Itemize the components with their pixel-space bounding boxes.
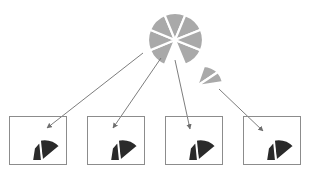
source-pie <box>148 13 203 65</box>
dark-slice <box>188 139 216 161</box>
dark-slice <box>110 139 138 161</box>
target-box-3 <box>166 117 223 165</box>
arrows <box>47 53 263 131</box>
target-box-1 <box>10 117 67 165</box>
arrow <box>175 60 190 129</box>
arrow <box>113 58 161 128</box>
diagram-canvas <box>0 0 310 188</box>
dark-slice <box>32 139 60 161</box>
target-box-4 <box>244 117 301 165</box>
arrow <box>219 89 263 131</box>
dark-slice <box>266 139 294 161</box>
detached-slice <box>197 66 223 86</box>
